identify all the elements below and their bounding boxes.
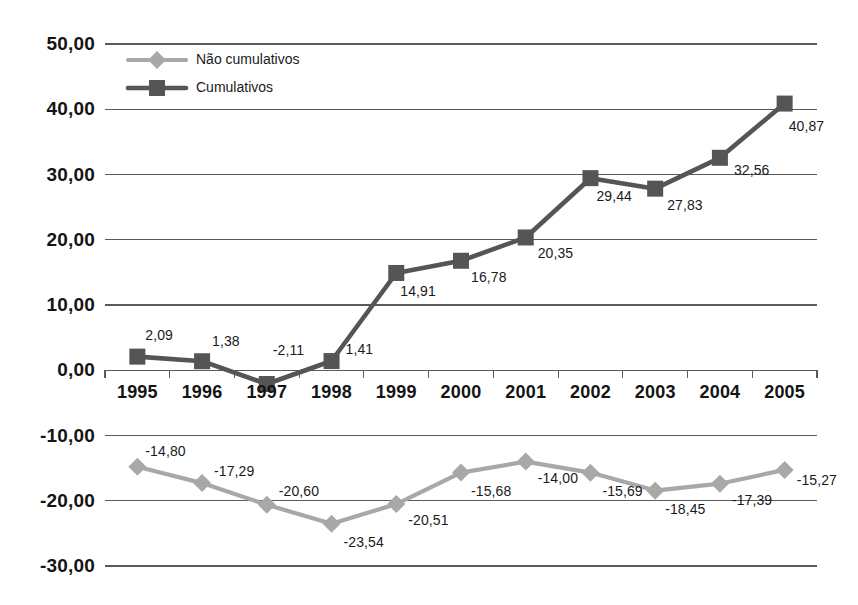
data-point-label: 1,41 [346, 341, 374, 357]
data-point-label: -15,69 [602, 483, 642, 499]
data-point-marker [129, 349, 145, 365]
data-point-label: -15,68 [471, 483, 511, 499]
legend-marker-swatch [148, 51, 166, 69]
legend-item-label: Não cumulativos [196, 51, 300, 67]
data-point-label: -17,29 [214, 463, 254, 479]
data-point-label: 29,44 [596, 188, 632, 204]
data-point-label: -17,39 [732, 492, 772, 508]
y-axis-tick-label: -20,00 [10, 490, 95, 512]
y-axis-tick-label: 20,00 [10, 229, 95, 251]
data-point-label: -2,11 [273, 342, 304, 358]
data-point-marker [518, 229, 534, 245]
x-axis-tick-label: 1997 [232, 382, 302, 403]
chart-container: 50,0040,0030,0020,0010,000,00-10,00-20,0… [0, 0, 858, 605]
data-point-marker [646, 482, 664, 500]
data-point-label: -14,80 [145, 443, 185, 459]
data-point-marker [777, 96, 793, 112]
data-point-marker [712, 150, 728, 166]
data-point-marker [323, 515, 341, 533]
data-point-label: -18,45 [665, 501, 705, 517]
legend-marker-swatch [149, 80, 165, 96]
y-axis-tick-label: 0,00 [10, 359, 95, 381]
y-axis-tick-label: 40,00 [10, 98, 95, 120]
y-axis-tick-label: 10,00 [10, 294, 95, 316]
x-axis-tick-label: 2001 [491, 382, 561, 403]
data-point-marker [776, 461, 794, 479]
data-point-marker [453, 253, 469, 269]
x-axis-tick-label: 2003 [620, 382, 690, 403]
data-point-marker [324, 353, 340, 369]
data-point-label: 32,56 [734, 162, 770, 178]
data-point-label: 16,78 [471, 269, 507, 285]
x-axis-tick-label: 1995 [102, 382, 172, 403]
data-point-marker [388, 265, 404, 281]
data-point-marker [387, 495, 405, 513]
data-point-marker [582, 170, 598, 186]
data-point-label: -14,00 [538, 470, 578, 486]
data-point-label: 1,38 [212, 333, 240, 349]
y-axis-tick-label: -30,00 [10, 555, 95, 577]
data-point-marker [581, 464, 599, 482]
x-axis-tick-label: 2005 [750, 382, 820, 403]
y-axis-tick-label: 30,00 [10, 164, 95, 186]
data-point-label: 14,91 [400, 283, 436, 299]
data-point-label: 27,83 [667, 197, 703, 213]
data-point-label: 40,87 [789, 118, 825, 134]
data-point-marker [647, 181, 663, 197]
data-point-marker [194, 353, 210, 369]
x-axis-tick-label: 2004 [685, 382, 755, 403]
x-axis-tick-label: 1998 [297, 382, 367, 403]
data-point-label: -15,27 [797, 472, 837, 488]
x-axis-tick-label: 1996 [167, 382, 237, 403]
data-point-label: -23,54 [344, 534, 384, 550]
data-point-label: 2,09 [145, 327, 173, 343]
y-axis-tick-label: -10,00 [10, 425, 95, 447]
x-axis-tick-label: 2002 [555, 382, 625, 403]
data-point-label: 20,35 [538, 245, 574, 261]
data-point-marker [193, 474, 211, 492]
data-point-marker [128, 458, 146, 476]
data-point-marker [452, 464, 470, 482]
data-point-marker [517, 453, 535, 471]
x-axis-tick-label: 2000 [426, 382, 496, 403]
data-point-label: -20,51 [408, 512, 448, 528]
y-axis-tick-label: 50,00 [10, 33, 95, 55]
data-point-marker [711, 475, 729, 493]
data-point-label: -20,60 [279, 483, 319, 499]
x-axis-tick-label: 1999 [361, 382, 431, 403]
legend-item-label: Cumulativos [196, 79, 273, 95]
data-point-marker [258, 496, 276, 514]
